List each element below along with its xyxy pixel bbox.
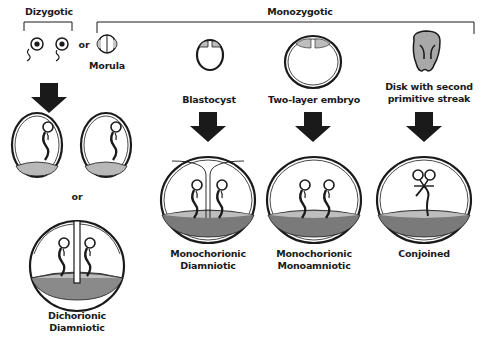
two-layer-embryo-label: Two-layer embryo <box>268 94 360 105</box>
monozygotic-label: Monozygotic <box>260 6 340 17</box>
mono-mono-label-line1: Monochorionic <box>274 248 354 259</box>
arrow-down-icon <box>190 112 226 142</box>
disk-label-line2: primitive streak <box>382 93 476 104</box>
conjoined-sac <box>377 157 471 243</box>
or-label: or <box>76 39 92 50</box>
arrow-down-icon <box>295 112 331 142</box>
disk-label-line1: Disk with second <box>382 81 476 92</box>
mono-di-label-line2: Diamniotic <box>168 260 248 271</box>
separate-sac <box>12 113 62 177</box>
dichorionic-label-line2: Diamniotic <box>40 322 114 333</box>
dizygotic-label: Dizygotic <box>22 6 76 17</box>
arrow-down-icon <box>406 112 442 142</box>
embryonic-disk-icon <box>413 31 440 71</box>
separate-sac <box>81 113 131 177</box>
two-layer-embryo-icon <box>285 36 341 88</box>
dichorionic-diamniotic-sac <box>30 221 124 311</box>
monochorionic-diamniotic-sac <box>161 157 255 243</box>
blastocyst-label: Blastocyst <box>180 94 238 105</box>
blastocyst-icon <box>197 40 223 70</box>
monochorionic-monoamniotic-sac <box>267 157 361 243</box>
dichorionic-label-line1: Dichorionic <box>40 310 114 321</box>
zygote-icon <box>27 38 43 61</box>
morula-label: Morula <box>86 60 128 71</box>
mono-mono-label-line2: Monoamniotic <box>274 260 354 271</box>
twinning-diagram <box>0 0 487 342</box>
or-label: or <box>68 191 86 202</box>
mono-di-label-line1: Monochorionic <box>168 248 248 259</box>
arrow-down-icon <box>31 83 67 113</box>
morula-icon <box>97 35 117 53</box>
zygote-icon <box>56 38 68 61</box>
dizygotic-bracket <box>24 22 72 31</box>
conjoined-label: Conjoined <box>392 248 456 259</box>
